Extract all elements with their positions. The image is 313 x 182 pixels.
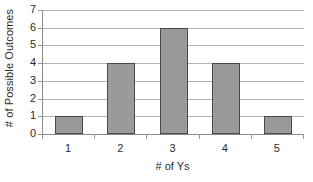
x-tick-label: 3 [146,141,198,157]
bar-slot [43,10,95,134]
x-tick-label: 5 [251,141,303,157]
bar [160,28,188,134]
bar-slot [147,10,199,134]
x-axis-tick-marks [42,135,304,140]
x-tick-mark [251,135,252,139]
bar [212,63,240,134]
bar [264,116,292,134]
bar-slot [200,10,252,134]
y-tick-label: 7 [20,4,36,15]
y-axis-title: # of Possible Outcomes [0,0,18,136]
y-axis-tick-labels: 01234567 [20,10,38,134]
x-tick-mark [94,135,95,139]
y-axis-title-text: # of Possible Outcomes [3,9,15,127]
plot-area [42,10,304,135]
bars-layer [43,10,304,134]
y-tick-label: 5 [20,39,36,50]
y-tick-label: 0 [20,128,36,139]
bar [107,63,135,134]
y-tick-label: 4 [20,57,36,68]
x-tick-label: 4 [199,141,251,157]
x-tick-mark [42,135,43,139]
bar [55,116,83,134]
bar-slot [252,10,304,134]
x-axis-title: # of Ys [42,160,303,172]
x-axis-tick-labels: 12345 [42,141,303,157]
x-tick-mark [199,135,200,139]
y-tick-label: 6 [20,22,36,33]
bar-chart: # of Possible Outcomes 01234567 12345 # … [0,0,313,182]
y-tick-label: 1 [20,110,36,121]
x-tick-mark [146,135,147,139]
y-tick-label: 2 [20,93,36,104]
x-tick-label: 2 [94,141,146,157]
bar-slot [95,10,147,134]
x-tick-label: 1 [42,141,94,157]
y-tick-label: 3 [20,75,36,86]
x-tick-mark [303,135,304,139]
